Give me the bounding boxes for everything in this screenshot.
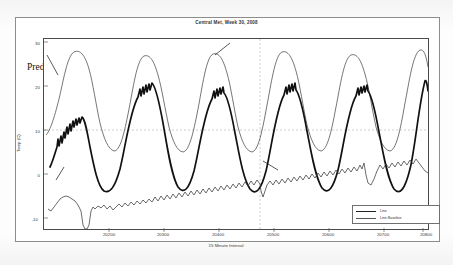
y-tick-label-30: 30 — [22, 41, 40, 46]
legend-swatch-line-baseline — [356, 218, 376, 219]
leader-line-baseline — [215, 43, 230, 55]
y-axis-title: Temp (C) — [16, 134, 21, 152]
chart-title: Central Met, Week 30, 2008 — [0, 20, 453, 25]
chart-legend: Line Line Baseline — [352, 205, 440, 224]
leader-line-delta — [263, 161, 278, 170]
series-baseline — [46, 50, 428, 152]
legend-entry-line-baseline: Line Baseline — [356, 215, 436, 222]
y-tick-label-20: 20 — [22, 85, 40, 90]
x-axis-title: 15 Minute Interval — [146, 243, 306, 248]
x-axis-ticks — [43, 228, 427, 234]
chart-figure: Central Met, Week 30, 2008 30 20 10 0 -1… — [0, 0, 453, 265]
y-tick-label-10: 10 — [22, 129, 40, 134]
series-observed — [50, 80, 428, 191]
plot-area — [43, 38, 429, 230]
legend-entry-line: Line — [356, 208, 436, 215]
leader-line-observed — [56, 167, 64, 180]
plot-svg — [44, 39, 428, 229]
leader-line-predicted — [47, 55, 58, 75]
legend-swatch-line — [356, 211, 376, 212]
legend-label-line: Line — [380, 208, 387, 215]
legend-label-line-baseline: Line Baseline — [380, 215, 402, 222]
y-tick-label-0: 0 — [22, 173, 40, 178]
y-tick-label-neg10: -10 — [20, 217, 38, 222]
